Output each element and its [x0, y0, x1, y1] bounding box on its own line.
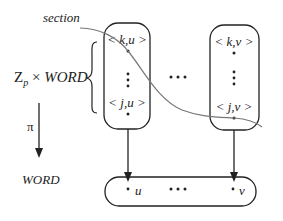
fiber-u-bottom-label: < j,u >: [108, 95, 145, 110]
base-point-v: v: [239, 183, 245, 198]
base-point-u: u: [135, 183, 142, 198]
arrow-head-icon: [35, 148, 43, 158]
fiber-v-top-label: < k,v >: [215, 34, 254, 49]
point-icon: [233, 52, 236, 55]
fiber-bundle-diagram: section Zp × WORD < k,u > < j,u > < k,v …: [0, 0, 283, 221]
base-space-box: [105, 177, 256, 206]
fiber-v-bottom-label: < j,v >: [216, 99, 253, 114]
point-icon: [127, 188, 130, 191]
hdots-icon: [170, 188, 173, 191]
projection-label: π: [27, 119, 34, 134]
brace-icon: [87, 42, 97, 113]
section-label: section: [43, 10, 80, 25]
hdots-icon: [170, 76, 173, 79]
total-space-label: Zp × WORD: [14, 69, 88, 88]
fiber-u-top-label: < k,u >: [107, 32, 147, 47]
vdots-icon: [127, 73, 130, 76]
point-icon: [127, 113, 130, 116]
base-space-label: WORD: [22, 172, 60, 187]
point-icon: [232, 188, 235, 191]
vdots-icon: [233, 71, 236, 74]
